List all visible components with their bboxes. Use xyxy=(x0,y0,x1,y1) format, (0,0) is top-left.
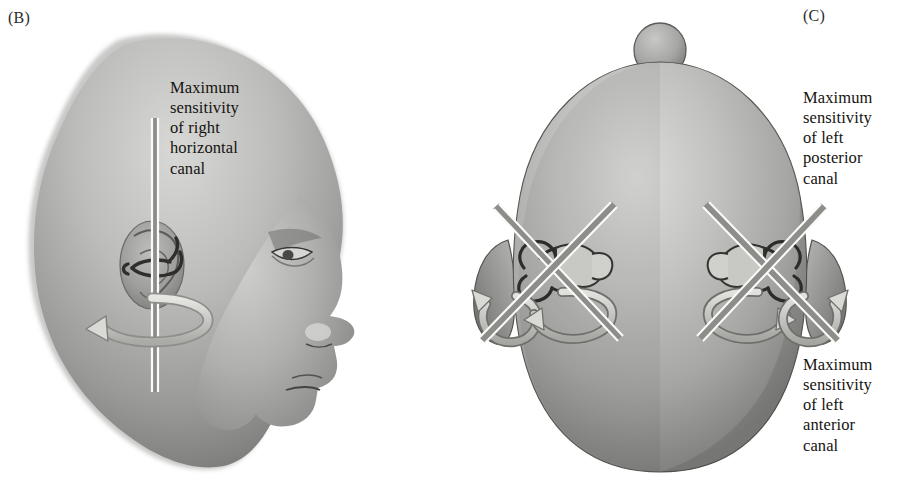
right-anterior-canal-axis xyxy=(703,202,841,343)
left-cochlea xyxy=(592,253,612,280)
left-inner-rotation-arrow xyxy=(524,292,612,339)
brow-shading xyxy=(268,229,322,252)
right-outer-rotation-arrow xyxy=(783,290,848,342)
right-posterior-canal-axis xyxy=(697,204,827,341)
lower-lid-shadow xyxy=(272,256,314,266)
right-inner-rotation-arrow xyxy=(708,292,796,339)
callout-left-anterior-canal: Maximum sensitivity of left anterior can… xyxy=(803,355,913,456)
panel-label-b: (B) xyxy=(8,10,30,26)
ear-left-superior xyxy=(474,240,515,344)
right-vestibule xyxy=(718,244,764,287)
eye xyxy=(272,248,312,260)
right-cochlea xyxy=(708,253,728,280)
left-vestibule xyxy=(556,244,602,287)
nose-highlight xyxy=(305,323,331,341)
figure-root: (B) Maximum sensitivity of right horizon… xyxy=(0,0,920,480)
callout-right-horizontal-canal: Maximum sensitivity of right horizontal … xyxy=(170,78,239,179)
ear-right-superior xyxy=(805,240,846,344)
left-anterior-canal-axis xyxy=(479,202,617,343)
vertical-axis-right-horizontal-canal xyxy=(152,118,158,392)
pupil xyxy=(283,250,294,260)
right-horizontal-canal-schematic xyxy=(124,238,182,276)
skull-left-shading xyxy=(519,62,660,472)
head-face-profile xyxy=(196,196,354,430)
left-semicircular-canals xyxy=(519,242,586,301)
panel-c: (C) Maximum sensitivity of left posterio… xyxy=(400,0,920,480)
horizontal-plane-rotation-arrow xyxy=(86,298,208,342)
nostril xyxy=(306,344,332,347)
left-posterior-canal-axis xyxy=(494,204,623,341)
panel-label-c: (C) xyxy=(803,8,825,24)
mouth-line xyxy=(286,387,320,390)
upper-lip xyxy=(292,375,322,378)
left-outer-rotation-arrow xyxy=(472,290,537,342)
skull-right-shading xyxy=(660,196,807,472)
head-superior-shape xyxy=(513,62,806,472)
panel-b: (B) Maximum sensitivity of right horizon… xyxy=(0,0,400,480)
ear-left-lateral xyxy=(120,221,184,309)
panel-b-illustration xyxy=(0,0,400,480)
nose-superior-view xyxy=(634,23,686,77)
right-semicircular-canals xyxy=(734,242,801,301)
callout-left-posterior-canal: Maximum sensitivity of left posterior ca… xyxy=(803,88,913,189)
